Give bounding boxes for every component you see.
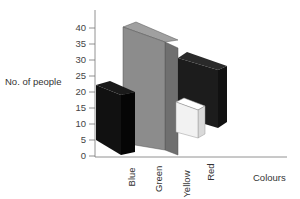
y-ticks [89,28,95,156]
y-tick-label: 15 [66,102,86,113]
bar-blue [96,81,135,155]
y-tick-label: 25 [66,70,86,81]
category-label-green: Green [153,166,164,192]
y-tick-label: 20 [66,86,86,97]
y-axis-label: No. of people [5,76,62,87]
y-tick-label: 40 [66,22,86,33]
y-tick-label: 30 [66,54,86,65]
y-tick-label: 10 [66,118,86,129]
category-label-blue: Blue [126,167,137,186]
y-tick-label: 5 [66,134,86,145]
category-label-yellow: Yellow [181,170,192,197]
y-tick-label: 35 [66,38,86,49]
bar-chart [0,0,300,199]
x-axis-label: Colours [253,172,286,183]
category-label-red: Red [205,163,216,180]
y-tick-label: 0 [66,150,86,161]
